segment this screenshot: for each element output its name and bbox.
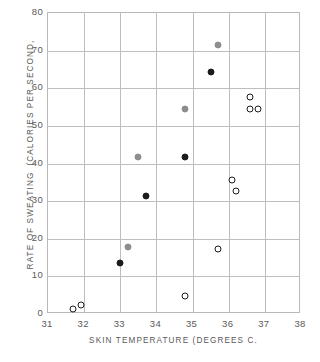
data-point-open xyxy=(232,187,239,194)
x-tick-label: 31 xyxy=(34,318,60,329)
x-tick-label: 38 xyxy=(287,318,313,329)
data-point-filled-black xyxy=(207,69,214,76)
data-point-open xyxy=(214,245,221,252)
gridline-vertical xyxy=(229,13,230,312)
data-point-filled-black xyxy=(117,259,124,266)
data-point-open xyxy=(247,105,254,112)
gridline-vertical xyxy=(265,13,266,312)
gridline-horizontal xyxy=(48,276,299,277)
plot-area xyxy=(47,12,300,313)
data-point-filled-grey xyxy=(124,244,131,251)
x-tick-label: 37 xyxy=(251,318,277,329)
x-tick-label: 35 xyxy=(179,318,205,329)
data-point-filled-black xyxy=(182,153,189,160)
x-tick-label: 34 xyxy=(142,318,168,329)
gridline-horizontal xyxy=(48,126,299,127)
data-point-filled-grey xyxy=(135,153,142,160)
data-point-open xyxy=(70,305,77,312)
data-point-open xyxy=(254,105,261,112)
gridline-vertical xyxy=(120,13,121,312)
data-point-open xyxy=(182,292,189,299)
data-point-open xyxy=(77,302,84,309)
data-point-filled-grey xyxy=(214,42,221,49)
data-point-open xyxy=(229,176,236,183)
y-axis-title-line2: (CALORIES PER SECOND, xyxy=(26,40,35,166)
x-tick-label: 36 xyxy=(215,318,241,329)
y-axis-title-line1: RATE OF SWEATING xyxy=(26,172,35,270)
y-axis-title: RATE OF SWEATING(CALORIES PER SECOND, xyxy=(26,0,35,315)
gridline-vertical xyxy=(193,13,194,312)
x-tick-label: 33 xyxy=(106,318,132,329)
gridline-horizontal xyxy=(48,164,299,165)
gridline-horizontal xyxy=(48,239,299,240)
gridline-horizontal xyxy=(48,51,299,52)
x-tick-label: 32 xyxy=(70,318,96,329)
data-point-open xyxy=(247,93,254,100)
gridline-vertical xyxy=(156,13,157,312)
gridline-horizontal xyxy=(48,88,299,89)
x-axis-tick-labels: 3132333435363738 xyxy=(47,318,300,332)
scatter-chart-figure: 01020304050607080 3132333435363738 SKIN … xyxy=(0,0,320,362)
gridline-horizontal xyxy=(48,201,299,202)
x-axis-title: SKIN TEMPERATURE (DEGREES C. xyxy=(47,336,300,345)
data-point-filled-grey xyxy=(182,106,189,113)
data-point-filled-black xyxy=(142,193,149,200)
gridline-vertical xyxy=(84,13,85,312)
